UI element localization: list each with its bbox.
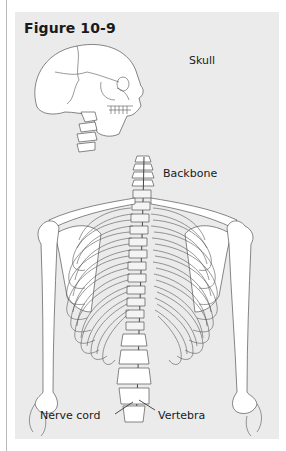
label-skull: Skull — [189, 54, 215, 67]
skull-drawing — [35, 44, 143, 152]
figure-panel: Figure 10-9 — [15, 12, 279, 439]
label-backbone: Backbone — [163, 167, 217, 180]
label-vertebra: Vertebra — [158, 409, 205, 422]
page-margin-rule — [6, 0, 7, 451]
label-nerve-cord: Nerve cord — [40, 409, 100, 422]
skeleton-illustration — [15, 12, 279, 439]
backbone-drawing — [117, 156, 154, 422]
